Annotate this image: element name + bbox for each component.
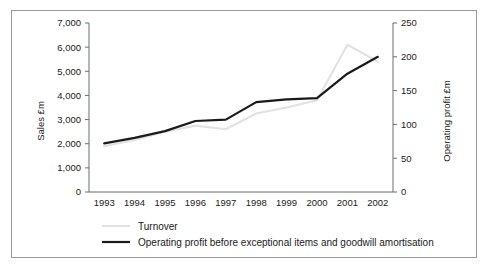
legend-label-turnover: Turnover: [138, 221, 178, 232]
left-tick-label: 2,000: [57, 138, 81, 149]
legend-label-operating-profit: Operating profit before exceptional item…: [138, 237, 434, 248]
series-line-operating-profit: [104, 57, 378, 144]
left-tick-label: 7,000: [57, 17, 81, 28]
right-tick-label: 250: [401, 17, 417, 28]
right-tick-label: 0: [401, 186, 406, 197]
left-tick-label: 4,000: [57, 90, 81, 101]
chart-plot-container: 01,0002,0003,0004,0005,0006,0007,000 Sal…: [12, 11, 478, 259]
left-axis: 01,0002,0003,0004,0005,0006,0007,000 Sal…: [35, 17, 89, 197]
line-chart: 01,0002,0003,0004,0005,0006,0007,000 Sal…: [12, 11, 478, 259]
right-tick-label: 200: [401, 51, 417, 62]
right-tick-label: 100: [401, 119, 417, 130]
x-axis: 1993199419951996199719981999200020012002: [89, 192, 393, 208]
left-tick-label: 5,000: [57, 66, 81, 77]
series-line-turnover: [104, 45, 378, 146]
left-tick-label: 1,000: [57, 162, 81, 173]
left-tick-label: 3,000: [57, 114, 81, 125]
x-axis-tick-label: 1998: [246, 197, 267, 208]
right-axis-ticks: 050100150200250: [393, 17, 417, 197]
x-axis-tick-label: 1994: [124, 197, 145, 208]
x-axis-tick-label: 1995: [154, 197, 175, 208]
x-axis-tick-label: 2001: [337, 197, 358, 208]
chart-legend: Turnover Operating profit before excepti…: [102, 221, 434, 248]
x-axis-labels: 1993199419951996199719981999200020012002: [94, 197, 389, 208]
left-tick-label: 0: [76, 186, 81, 197]
x-axis-tick-label: 1999: [276, 197, 297, 208]
right-tick-label: 50: [401, 153, 412, 164]
chart-figure-frame: 01,0002,0003,0004,0005,0006,0007,000 Sal…: [11, 10, 477, 258]
x-axis-tick-label: 2000: [306, 197, 327, 208]
x-axis-tick-label: 2002: [367, 197, 388, 208]
right-tick-label: 150: [401, 85, 417, 96]
left-axis-ticks: 01,0002,0003,0004,0005,0006,0007,000: [57, 17, 89, 197]
left-tick-label: 6,000: [57, 42, 81, 53]
x-axis-tick-label: 1996: [185, 197, 206, 208]
x-axis-tick-label: 1993: [94, 197, 115, 208]
data-series-group: [104, 45, 378, 146]
right-axis-title: Operating profit £m: [441, 80, 452, 161]
right-axis: 050100150200250 Operating profit £m: [393, 17, 452, 197]
cropped-caption-sliver: [0, 0, 488, 5]
left-axis-title: Sales £m: [35, 101, 46, 141]
x-axis-tick-label: 1997: [215, 197, 236, 208]
